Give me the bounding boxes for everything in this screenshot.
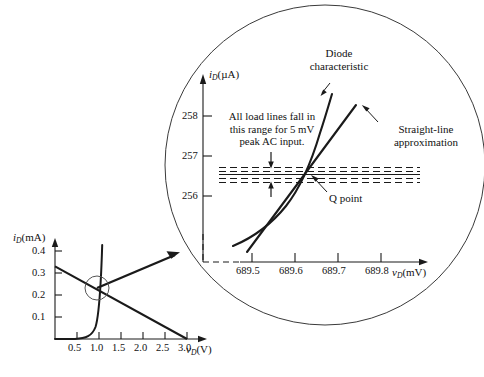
main-x-axis-unit: (V) <box>196 343 211 355</box>
mag-y-tick-256: 256 <box>182 190 198 201</box>
load-line-range-note-line3: peak AC input. <box>216 135 328 148</box>
mag-x-tick-689.5: 689.5 <box>236 265 260 276</box>
mag-x-axis-unit: (mV) <box>402 266 426 278</box>
mag-y-axis-title: iD(µA) <box>209 68 239 82</box>
load-line-range-note-line2: this range for 5 mV <box>216 123 328 136</box>
main-x-tick-1.5: 1.5 <box>112 342 125 353</box>
diagram-svg <box>0 0 484 377</box>
main-x-tick-2.5: 2.5 <box>156 342 169 353</box>
diode-characteristic-label: Diode characteristic <box>294 47 384 72</box>
q-point-label: Q point <box>329 192 362 204</box>
mag-x-axis-title: vD(mV) <box>392 266 426 280</box>
main-x-tick-2.0: 2.0 <box>134 342 147 353</box>
mag-x-tick-689.7: 689.7 <box>322 265 346 276</box>
callout-arrow <box>97 251 180 288</box>
main-y-tick-0.3: 0.3 <box>32 267 45 278</box>
load-line-range-note-line1: All load lines fall in <box>216 110 328 123</box>
main-y-tick-0.1: 0.1 <box>32 311 45 322</box>
main-y-axis-unit: (mA) <box>22 231 46 243</box>
main-y-axis-arrowhead <box>52 238 58 247</box>
main-x-tick-0.5: 0.5 <box>68 342 81 353</box>
main-iv-plot <box>52 238 207 342</box>
mag-y-axis-unit: (µA) <box>218 68 240 80</box>
main-x-axis-arrowhead <box>198 336 207 342</box>
main-x-ticks <box>77 332 187 339</box>
diode-characteristic-label-line1: Diode <box>294 47 384 60</box>
diode-characteristic-label-line2: characteristic <box>294 60 384 73</box>
mag-y-tick-257: 257 <box>182 150 198 161</box>
straight-line-approximation-label: Straight-line approximation <box>377 123 475 148</box>
main-y-tick-0.4: 0.4 <box>32 245 45 256</box>
figure-canvas: iD(mA) vD(V) 0.4 0.3 0.2 0.1 0.5 1.0 1.5… <box>0 0 484 377</box>
main-x-tick-1.0: 1.0 <box>90 342 103 353</box>
main-y-axis-title: iD(mA) <box>13 231 45 245</box>
load-line-range-note: All load lines fall in this range for 5 … <box>216 110 328 148</box>
main-diode-characteristic <box>55 245 102 339</box>
main-y-tick-0.2: 0.2 <box>32 289 45 300</box>
main-y-ticks <box>55 251 62 317</box>
mag-x-tick-689.8: 689.8 <box>365 265 389 276</box>
mag-y-tick-258: 258 <box>182 110 198 121</box>
mag-x-tick-689.6: 689.6 <box>279 265 303 276</box>
main-x-tick-3.0: 3.0 <box>178 342 191 353</box>
straight-line-approximation-label-line1: Straight-line <box>377 123 475 136</box>
straight-line-approximation-label-line2: approximation <box>377 136 475 149</box>
